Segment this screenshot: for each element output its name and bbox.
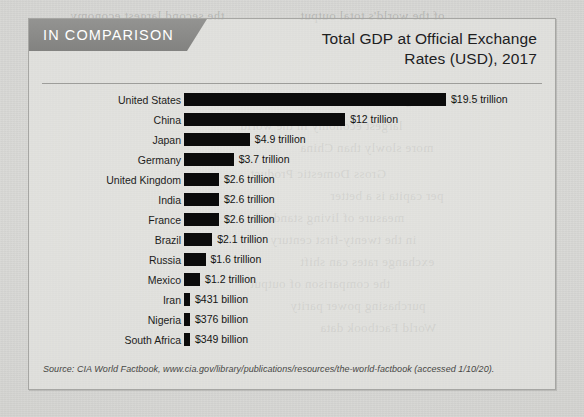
banner-angled-edge: [187, 19, 207, 51]
bar-category-label: Iran: [29, 293, 181, 307]
bar-value-label: $2.6 trillion: [219, 213, 275, 226]
bar-category-label: Japan: [29, 133, 181, 147]
bar-row: China$12 trillion: [29, 113, 555, 133]
bar-value-label: $2.6 trillion: [219, 193, 275, 206]
banner-label: IN COMPARISON: [29, 27, 174, 43]
bar-value-label: $19.5 trillion: [446, 93, 508, 106]
bar-row: South Africa$349 billion: [29, 333, 555, 353]
bar-value-label: $4.9 trillion: [250, 133, 306, 146]
bar: [184, 253, 206, 266]
bar-category-label: Russia: [29, 253, 181, 267]
bar-row: United Kingdom$2.6 trillion: [29, 173, 555, 193]
bar: [184, 213, 219, 226]
bar-category-label: Germany: [29, 153, 181, 167]
figure-box: IN COMPARISON Total GDP at Official Exch…: [28, 18, 556, 390]
bar-row: Russia$1.6 trillion: [29, 253, 555, 273]
bar-row: Mexico$1.2 trillion: [29, 273, 555, 293]
bar: [184, 93, 446, 106]
bar-category-label: China: [29, 113, 181, 127]
chart-title: Total GDP at Official Exchange Rates (US…: [237, 29, 537, 69]
bar-track: $2.6 trillion: [184, 173, 551, 186]
bar-category-label: Brazil: [29, 233, 181, 247]
bar-row: Brazil$2.1 trillion: [29, 233, 555, 253]
bar-category-label: India: [29, 193, 181, 207]
bar-value-label: $2.1 trillion: [212, 233, 268, 246]
bar-track: $4.9 trillion: [184, 133, 551, 146]
bar-category-label: South Africa: [29, 333, 181, 347]
bar-value-label: $376 billion: [190, 313, 248, 326]
bar-value-label: $431 billion: [190, 293, 248, 306]
header-divider: [42, 83, 542, 84]
bar-chart-rows: United States$19.5 trillionChina$12 tril…: [29, 93, 555, 353]
bar-track: $2.6 trillion: [184, 213, 551, 226]
bar-track: $19.5 trillion: [184, 93, 551, 106]
chart-title-line-1: Total GDP at Official Exchange: [237, 29, 537, 49]
bar-row: Iran$431 billion: [29, 293, 555, 313]
bar: [184, 193, 219, 206]
bar-track: $3.7 trillion: [184, 153, 551, 166]
bar-row: Japan$4.9 trillion: [29, 133, 555, 153]
bar-value-label: $3.7 trillion: [234, 153, 290, 166]
bar-value-label: $12 trillion: [345, 113, 398, 126]
bar-category-label: Nigeria: [29, 313, 181, 327]
bar: [184, 153, 234, 166]
bar-track: $349 billion: [184, 333, 551, 346]
bar-category-label: United Kingdom: [29, 173, 181, 187]
bar-value-label: $1.6 trillion: [206, 253, 262, 266]
scanned-page-background: the second largest economyof the world's…: [0, 0, 584, 417]
bar-category-label: United States: [29, 93, 181, 107]
bar-row: France$2.6 trillion: [29, 213, 555, 233]
bar: [184, 133, 250, 146]
bar: [184, 113, 345, 126]
bar-category-label: France: [29, 213, 181, 227]
bar: [184, 233, 212, 246]
bar: [184, 273, 200, 286]
bar-track: $2.1 trillion: [184, 233, 551, 246]
bar-track: $12 trillion: [184, 113, 551, 126]
bar: [184, 173, 219, 186]
bar-row: Germany$3.7 trillion: [29, 153, 555, 173]
bar-row: Nigeria$376 billion: [29, 313, 555, 333]
bar-track: $1.6 trillion: [184, 253, 551, 266]
bar-value-label: $2.6 trillion: [219, 173, 275, 186]
bar-track: $431 billion: [184, 293, 551, 306]
source-note: Source: CIA World Factbook, www.cia.gov/…: [43, 363, 541, 375]
bar-row: India$2.6 trillion: [29, 193, 555, 213]
bar-track: $2.6 trillion: [184, 193, 551, 206]
bar-track: $376 billion: [184, 313, 551, 326]
bar-value-label: $1.2 trillion: [200, 273, 256, 286]
bar-category-label: Mexico: [29, 273, 181, 287]
bar-track: $1.2 trillion: [184, 273, 551, 286]
chart-title-line-2: Rates (USD), 2017: [237, 49, 537, 69]
bar-value-label: $349 billion: [190, 333, 248, 346]
banner: IN COMPARISON: [29, 19, 187, 51]
bar-row: United States$19.5 trillion: [29, 93, 555, 113]
